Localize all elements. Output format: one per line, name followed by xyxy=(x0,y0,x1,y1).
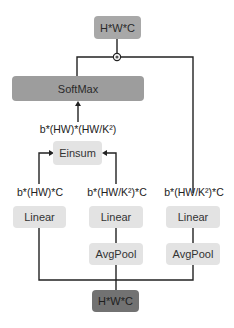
avgpool-label: AvgPool xyxy=(173,248,214,260)
branch-3-linear: Linear xyxy=(166,206,220,228)
output-node-label: H*W*C xyxy=(100,22,135,34)
branch-1-linear: Linear xyxy=(13,206,66,228)
linear-label: Linear xyxy=(101,211,132,223)
output-node: H*W*C xyxy=(94,16,141,39)
einsum-label: Einsum xyxy=(59,147,96,159)
einsum-node: Einsum xyxy=(53,141,102,165)
input-node-label: H*W*C xyxy=(98,295,133,307)
linear-label: Linear xyxy=(24,211,55,223)
branch-2-avgpool: AvgPool xyxy=(89,243,143,265)
softmax-label: SoftMax xyxy=(58,83,98,95)
branch-1-shape: b*(HW)*C xyxy=(10,186,70,198)
branch-2-shape: b*(HW/K²)*C xyxy=(84,186,150,198)
branch-2-linear: Linear xyxy=(89,206,143,228)
branch-3-shape: b*(HW/K²)*C xyxy=(161,186,227,198)
multiply-circle-icon xyxy=(113,53,120,60)
connector-wires xyxy=(0,0,234,328)
avgpool-label: AvgPool xyxy=(96,248,137,260)
branch-3-avgpool: AvgPool xyxy=(166,243,220,265)
softmax-node: SoftMax xyxy=(12,76,144,101)
linear-label: Linear xyxy=(178,211,209,223)
input-node: H*W*C xyxy=(92,290,139,312)
softmax-input-shape: b*(HW)*(HW/K²) xyxy=(36,123,120,135)
